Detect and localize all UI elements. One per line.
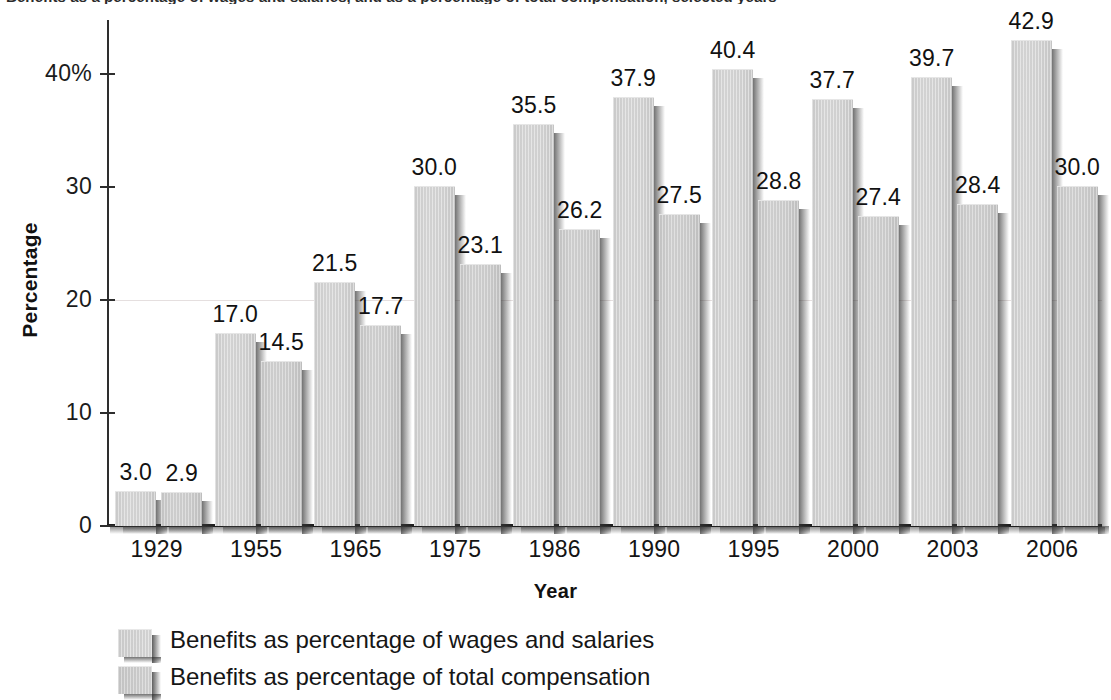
y-axis-title: Percentage xyxy=(18,190,42,370)
x-tick-label-1995: 1995 xyxy=(704,536,804,563)
bar-value-label: 27.4 xyxy=(846,184,911,211)
bar xyxy=(513,124,554,526)
bar-value-label: 21.5 xyxy=(302,250,367,277)
bar-value-label: 28.8 xyxy=(746,168,811,195)
x-tick-label-2000: 2000 xyxy=(804,536,904,563)
bar-value-label: 39.7 xyxy=(899,45,964,72)
bar-value-label: 27.5 xyxy=(647,182,712,209)
x-axis-title: Year xyxy=(0,580,1111,603)
bar-value-label: 35.5 xyxy=(501,92,566,119)
bar xyxy=(957,204,998,526)
bar-group: 30.023.1 xyxy=(414,20,501,526)
bar-group: 21.517.7 xyxy=(314,20,401,526)
bar-value-label: 17.7 xyxy=(348,293,413,320)
x-tick-label-1986: 1986 xyxy=(505,536,605,563)
bar xyxy=(1057,186,1098,526)
bar-value-label: 42.9 xyxy=(999,8,1064,35)
bar-value-label: 28.4 xyxy=(945,172,1010,199)
bar-value-label: 23.1 xyxy=(448,232,513,259)
bar xyxy=(360,325,401,526)
bar-value-label: 37.7 xyxy=(800,67,865,94)
bar-value-label: 30.0 xyxy=(402,154,467,181)
bar xyxy=(659,214,700,526)
bar-value-label: 26.2 xyxy=(547,197,612,224)
figure-title-cutoff: Benefits as a percentage of wages and sa… xyxy=(0,0,1111,4)
plot-area: 3.02.917.014.521.517.730.023.135.526.237… xyxy=(107,20,1102,526)
y-tick-label-10: 10 xyxy=(6,399,92,426)
bar xyxy=(1011,40,1052,526)
bar xyxy=(858,216,899,526)
legend-swatch-icon-series-2 xyxy=(118,666,152,694)
bar-value-label: 17.0 xyxy=(203,301,268,328)
bar xyxy=(161,492,202,526)
y-tick-label-30: 30 xyxy=(6,173,92,200)
bar xyxy=(758,200,799,526)
figure-title-text: Benefits as a percentage of wages and sa… xyxy=(0,0,1111,4)
x-tick-label-1975: 1975 xyxy=(406,536,506,563)
bar-value-label: 37.9 xyxy=(601,65,666,92)
bar-group: 35.526.2 xyxy=(513,20,600,526)
bar-group: 39.728.4 xyxy=(911,20,998,526)
y-tick-label-40: 40% xyxy=(6,60,92,87)
x-tick-label-1929: 1929 xyxy=(107,536,207,563)
legend-label-series-1: Benefits as percentage of wages and sala… xyxy=(170,626,654,654)
x-tick-label-1965: 1965 xyxy=(306,536,406,563)
bar-group: 3.02.9 xyxy=(115,20,202,526)
bar xyxy=(911,77,952,526)
x-tick-label-2003: 2003 xyxy=(903,536,1003,563)
legend-label-series-2: Benefits as percentage of total compensa… xyxy=(170,663,650,691)
bar-value-label: 14.5 xyxy=(249,329,314,356)
bar xyxy=(613,97,654,526)
bar xyxy=(559,229,600,526)
bar-group: 42.930.0 xyxy=(1011,20,1098,526)
bar-group: 37.727.4 xyxy=(812,20,899,526)
legend-swatch-icon-series-1 xyxy=(118,629,152,657)
bar xyxy=(261,361,302,526)
x-tick-label-1955: 1955 xyxy=(207,536,307,563)
y-tick-label-20: 20 xyxy=(6,286,92,313)
x-tick-label-2006: 2006 xyxy=(1003,536,1103,563)
bar-value-label: 30.0 xyxy=(1045,154,1110,181)
bar xyxy=(812,99,853,526)
bar-value-label: 40.4 xyxy=(700,37,765,64)
bar-group: 40.428.8 xyxy=(712,20,799,526)
chart-figure: Benefits as a percentage of wages and sa… xyxy=(0,0,1111,700)
bar-group: 17.014.5 xyxy=(215,20,302,526)
bar-group: 37.927.5 xyxy=(613,20,700,526)
bar xyxy=(215,333,256,526)
bar xyxy=(460,264,501,526)
y-tick-label-0: 0 xyxy=(6,512,92,539)
bar xyxy=(712,69,753,526)
x-tick-label-1990: 1990 xyxy=(605,536,705,563)
bar-value-label: 2.9 xyxy=(149,460,214,487)
bar xyxy=(115,491,156,526)
